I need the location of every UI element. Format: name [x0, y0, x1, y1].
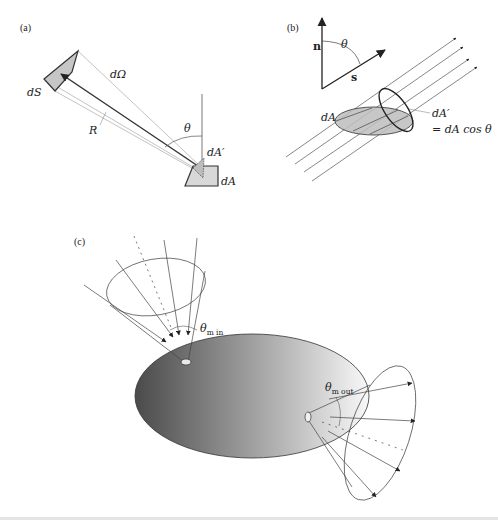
- source-area-patch: [44, 51, 78, 91]
- panel-c-label: (c): [74, 236, 85, 248]
- leader-line: [409, 109, 430, 113]
- theta-arc: [165, 136, 202, 147]
- solid-angle-label: dΩ: [110, 68, 126, 81]
- area-label: dA: [221, 175, 236, 188]
- panel-b: (b) n s θ dA dA′ = dA cos θ: [286, 18, 492, 181]
- projected-area-label-b: dA′: [432, 107, 450, 120]
- distance-label: R: [88, 124, 97, 137]
- theta-label: θ: [184, 122, 191, 135]
- theta-in-label: θm in: [200, 322, 224, 337]
- theta-label-b: θ: [341, 38, 348, 51]
- normal-label: n: [313, 40, 321, 53]
- panel-a: (a) R dΩ dS θ dA′ dA: [20, 22, 236, 188]
- panel-b-label: (b): [287, 22, 299, 34]
- projected-area-label: dA′: [207, 146, 225, 159]
- figure-canvas: (a) R dΩ dS θ dA′ dA (b) n: [0, 0, 498, 520]
- area-label-b: dA: [321, 111, 336, 124]
- medium-ellipse: [135, 334, 369, 458]
- exit-aperture: [305, 412, 311, 422]
- panel-c: (c) θm in: [74, 236, 430, 509]
- entry-aperture: [181, 359, 191, 365]
- central-ray-arrow: [61, 74, 201, 168]
- theta-in-arc: [170, 326, 197, 330]
- panel-a-label: (a): [20, 22, 31, 34]
- source-area-label: dS: [27, 86, 42, 99]
- relation-label: = dA cos θ: [432, 123, 492, 136]
- direction-label: s: [351, 71, 357, 84]
